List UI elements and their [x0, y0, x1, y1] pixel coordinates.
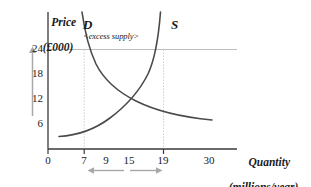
x-axis-title-sub: (millions/year)	[216, 181, 311, 187]
demand-curve	[82, 12, 212, 120]
x-tick-label-15: 15	[121, 155, 137, 167]
excess-supply-annotation: <excess supply>	[83, 32, 139, 41]
y-axis-title-main: Price	[51, 16, 76, 28]
x-axis-title: Quantity (millions/year)	[216, 144, 311, 187]
excess-supply-right-arrow	[130, 167, 163, 174]
excess-supply-left-arrow	[88, 167, 125, 174]
x-tick-label-9: 9	[98, 155, 114, 167]
x-axis-title-main: Quantity	[248, 156, 290, 168]
supply-demand-chart: Price (£000) Quantity (millions/year) 24…	[0, 0, 311, 187]
y-tick-label-18: 18	[25, 68, 43, 80]
x-tick-label-0: 0	[40, 155, 56, 167]
y-tick-label-12: 12	[25, 93, 43, 105]
x-tick-label-7: 7	[76, 155, 92, 167]
x-tick-label-30: 30	[201, 155, 217, 167]
demand-curve-label: D	[83, 18, 92, 32]
x-tick-label-19: 19	[155, 155, 171, 167]
y-tick-label-24: 24	[25, 43, 43, 55]
supply-curve-label: S	[171, 18, 178, 32]
y-tick-label-6: 6	[25, 118, 43, 130]
